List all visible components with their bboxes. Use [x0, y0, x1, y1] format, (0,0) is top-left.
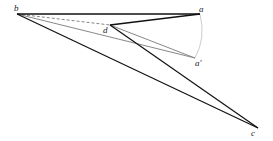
segment-dc	[110, 25, 258, 128]
segment-ad	[110, 14, 200, 25]
label-b: b	[14, 3, 19, 13]
label-c: c	[251, 128, 255, 138]
segment-da-prime	[110, 25, 195, 58]
geometry-diagram: b a d a' c	[0, 0, 273, 141]
label-d: d	[103, 25, 108, 35]
label-a: a	[199, 4, 204, 14]
segment-ba-prime	[17, 14, 195, 58]
label-a-prime: a'	[195, 58, 203, 68]
segment-bc	[17, 14, 258, 128]
rotation-arc	[195, 14, 202, 58]
